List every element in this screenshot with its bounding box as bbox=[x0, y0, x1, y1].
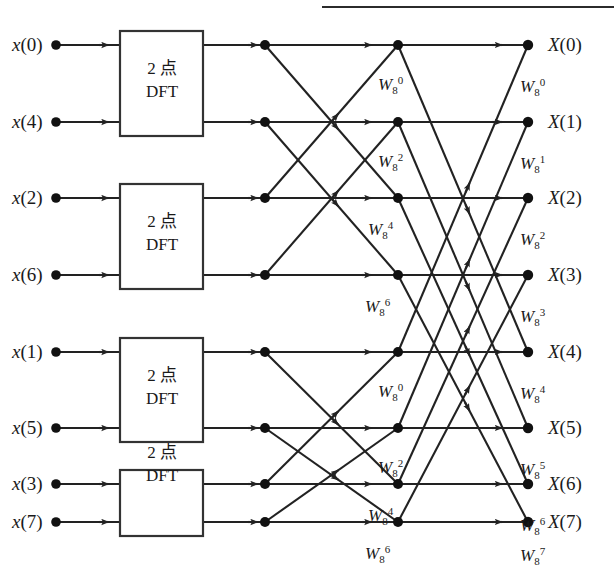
output-label-1: X(1) bbox=[548, 112, 582, 131]
dft-block-3-caption: 2 点 DFT bbox=[120, 442, 204, 488]
input-label-4: x(1) bbox=[12, 342, 43, 361]
dft-block-3-line2: DFT bbox=[120, 465, 204, 488]
flow-arrow bbox=[330, 470, 338, 476]
twiddle-stage2-1: W82 bbox=[378, 152, 403, 173]
node-dot bbox=[51, 347, 61, 357]
input-label-3: x(6) bbox=[12, 265, 43, 284]
twiddle-stage3-2: W82 bbox=[520, 230, 545, 251]
node-dot bbox=[51, 117, 61, 127]
node-dot bbox=[51, 193, 61, 203]
node-dot bbox=[51, 517, 61, 527]
node-dot bbox=[393, 479, 403, 489]
dft-block-2-line2: DFT bbox=[120, 388, 204, 411]
twiddle-stage3-7: W87 bbox=[520, 546, 545, 567]
input-label-2: x(2) bbox=[12, 188, 43, 207]
node-dot bbox=[523, 193, 533, 203]
output-label-0: X(0) bbox=[548, 35, 582, 54]
node-dot bbox=[51, 423, 61, 433]
twiddle-stage2-7: W86 bbox=[365, 544, 390, 565]
input-label-0: x(0) bbox=[12, 35, 43, 54]
dft-block-1-caption: 2 点 DFT bbox=[120, 211, 204, 257]
dft-block-1-line1: 2 点 bbox=[120, 211, 204, 234]
dft-block-2-line1: 2 点 bbox=[120, 365, 204, 388]
flow-arrow bbox=[466, 260, 470, 269]
node-dot bbox=[260, 40, 270, 50]
output-label-7: X(7) bbox=[548, 512, 582, 531]
dft-block-0-line1: 2 点 bbox=[120, 58, 204, 81]
node-dot bbox=[393, 40, 403, 50]
output-label-3: X(3) bbox=[548, 265, 582, 284]
node-dot bbox=[260, 193, 270, 203]
flow-arrow bbox=[332, 199, 339, 207]
node-dot bbox=[51, 270, 61, 280]
dft-block-1-line2: DFT bbox=[120, 234, 204, 257]
node-dot bbox=[393, 423, 403, 433]
node-dot bbox=[393, 193, 403, 203]
input-label-1: x(4) bbox=[12, 112, 43, 131]
node-dot bbox=[260, 479, 270, 489]
node-dot bbox=[51, 479, 61, 489]
flow-arrow bbox=[465, 402, 470, 411]
twiddle-stage2-6: W84 bbox=[368, 506, 393, 527]
dft-block-0-caption: 2 点 DFT bbox=[120, 58, 204, 104]
node-dot bbox=[260, 270, 270, 280]
node-dot bbox=[393, 117, 403, 127]
twiddle-stage3-1: W81 bbox=[520, 154, 545, 175]
figure-canvas: 2 点 DFT 2 点 DFT 2 点 DFT 2 点 DFT x(0)x(4)… bbox=[0, 0, 614, 567]
node-dot bbox=[51, 40, 61, 50]
flow-arrow bbox=[465, 386, 470, 395]
output-label-6: X(6) bbox=[548, 474, 582, 493]
node-dot bbox=[260, 347, 270, 357]
twiddle-stage3-5: W85 bbox=[520, 460, 545, 481]
twiddle-stage2-5: W82 bbox=[378, 458, 403, 479]
node-dot bbox=[523, 347, 533, 357]
node-dot bbox=[523, 423, 533, 433]
flow-arrow bbox=[331, 411, 338, 418]
node-dot bbox=[260, 517, 270, 527]
node-dot bbox=[260, 117, 270, 127]
dft-block-3-line1: 2 点 bbox=[120, 442, 204, 465]
twiddle-stage3-0: W80 bbox=[520, 77, 545, 98]
input-label-7: x(7) bbox=[12, 512, 43, 531]
flow-arrow bbox=[332, 114, 339, 122]
dft-block-0-line2: DFT bbox=[120, 81, 204, 104]
flow-arrow bbox=[465, 327, 469, 336]
node-dot bbox=[523, 117, 533, 127]
flow-arrow bbox=[466, 183, 470, 192]
input-label-6: x(3) bbox=[12, 474, 43, 493]
node-dot bbox=[523, 270, 533, 280]
input-label-5: x(5) bbox=[12, 418, 43, 437]
twiddle-stage2-3: W86 bbox=[365, 297, 390, 318]
output-label-2: X(2) bbox=[548, 188, 582, 207]
flow-arrow bbox=[465, 346, 469, 355]
twiddle-stage3-6: W86 bbox=[520, 516, 545, 537]
node-dot bbox=[393, 270, 403, 280]
output-label-4: X(4) bbox=[548, 342, 582, 361]
twiddle-stage2-4: W80 bbox=[378, 382, 403, 403]
dft-block-2-caption: 2 点 DFT bbox=[120, 365, 204, 411]
node-dot bbox=[393, 517, 403, 527]
node-dot bbox=[523, 40, 533, 50]
node-dot bbox=[260, 423, 270, 433]
flow-arrow bbox=[466, 281, 470, 290]
output-label-5: X(5) bbox=[548, 418, 582, 437]
flow-arrow bbox=[466, 205, 470, 214]
node-dot bbox=[393, 347, 403, 357]
twiddle-stage2-2: W84 bbox=[368, 220, 393, 241]
twiddle-stage3-4: W84 bbox=[520, 384, 545, 405]
twiddle-stage3-3: W83 bbox=[520, 307, 545, 328]
twiddle-stage2-0: W80 bbox=[378, 75, 403, 96]
